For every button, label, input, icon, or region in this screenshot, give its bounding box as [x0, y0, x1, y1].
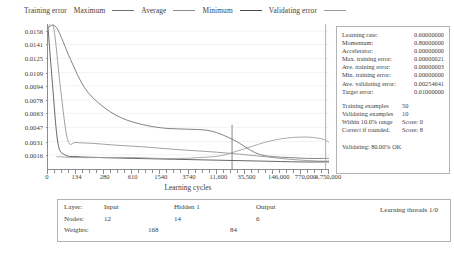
table-row-nodes: Nodes: 12 14 6	[64, 215, 444, 227]
x-tick-label: 35,500	[237, 173, 255, 180]
parameter-row: Target error:0.01000000	[342, 88, 444, 96]
stat-key: Training examples	[342, 102, 402, 110]
parameter-key: Ave. training error:	[342, 63, 390, 71]
y-tick-label: 0.0063	[25, 110, 43, 117]
legend-item-validating-label: Validating error	[269, 6, 317, 15]
training-chart-window: Training error Maximum Average Minimum V…	[0, 0, 454, 263]
parameter-row: Max. training error:0.00000021	[342, 55, 444, 63]
x-tick-label: 11,600	[209, 173, 227, 180]
parameter-value: 0.00000003	[414, 63, 444, 71]
table-row-layer: Layer: Input Hidden 1 Output Learning th…	[64, 203, 444, 215]
x-tick-label: 280	[100, 173, 110, 180]
info-panel: Learning rate:0.60000000Momentum:0.80000…	[336, 26, 450, 174]
nodes-hidden-value: 14	[174, 215, 181, 223]
legend-item-average-label: Average	[141, 6, 166, 15]
stat-row: Correct if rounded.Score: 8	[342, 126, 444, 134]
parameter-key: Max. training error:	[342, 55, 392, 63]
legend-swatch-validating-icon	[324, 10, 346, 11]
stat-key: Correct if rounded.	[342, 126, 402, 134]
legend-swatch-average-icon	[173, 10, 195, 11]
x-tick-label: 770,000	[295, 173, 316, 180]
legend-item-minimum-label: Minimum	[202, 6, 232, 15]
parameter-value: 0.00000000	[414, 47, 444, 55]
x-tick-label: 0	[45, 173, 48, 180]
x-tick-label: 1540	[154, 173, 167, 180]
nodes-output-value: 6	[256, 215, 260, 223]
x-tick-label: 146,000	[268, 173, 289, 180]
weights-first-value: 168	[148, 226, 159, 234]
weights-second-value: 84	[230, 226, 237, 234]
training-error-chart: 0.01560.01410.01250.01090.00940.00780.00…	[19, 22, 331, 174]
parameter-key: Min. training error:	[342, 71, 391, 79]
nodes-input-value: 12	[104, 215, 111, 223]
y-tick-label: 0.0016	[25, 151, 43, 158]
parameter-value: 0.00000000	[414, 71, 444, 79]
row-label-layer: Layer:	[64, 203, 82, 211]
legend-swatch-maximum-icon	[112, 10, 134, 11]
row-label-weights: Weights:	[64, 226, 89, 234]
stat-value: 50	[402, 102, 408, 110]
layer-hidden-label: Hidden 1	[174, 203, 200, 211]
x-tick-label: 4,750,000	[315, 173, 341, 180]
y-tick-label: 0.0156	[25, 28, 43, 35]
layer-output-label: Output	[256, 203, 275, 211]
x-tick-label: 3740	[182, 173, 195, 180]
stat-row: Validating examples10	[342, 110, 444, 118]
legend-item-maximum-label: Maximum	[74, 6, 106, 15]
x-tick-label: 610	[128, 173, 138, 180]
stat-value: Score: 8	[402, 126, 423, 134]
series-line-validating-error	[56, 137, 329, 158]
y-tick-label: 0.0141	[25, 41, 43, 48]
parameter-key: Learning rate:	[342, 31, 378, 39]
layer-input-label: Input	[104, 203, 119, 211]
y-tick-label: 0.0094	[25, 82, 43, 89]
stat-value: Score: 0	[402, 118, 423, 126]
parameter-row: Ave. validating error:0.00254641	[342, 80, 444, 88]
stat-key: Validating examples	[342, 110, 402, 118]
legend-swatch-minimum-icon	[240, 10, 262, 11]
parameter-value: 0.00000021	[414, 55, 444, 63]
y-tick-label: 0.0125	[25, 55, 43, 62]
x-axis-title: Learning cycles	[47, 183, 329, 192]
stat-key: Within 10.0% range	[342, 118, 402, 126]
y-axis-labels: 0.01560.01410.01250.01090.00940.00780.00…	[19, 22, 46, 172]
parameter-row: Learning rate:0.60000000	[342, 31, 444, 39]
y-tick-label: 0.0047	[25, 124, 43, 131]
learning-threads-label: Learning threads 1/0	[380, 206, 438, 214]
parameter-key: Target error:	[342, 88, 373, 96]
parameter-value: 0.01000000	[414, 88, 444, 96]
parameter-row: Momentum:0.80000000	[342, 39, 444, 47]
parameter-row: Min. training error:0.00000000	[342, 71, 444, 79]
legend-title: Training error	[24, 6, 67, 15]
table-row-weights: Weights: 168 84	[64, 226, 444, 238]
parameter-value: 0.60000000	[414, 31, 444, 39]
y-tick-label: 0.0078	[25, 97, 43, 104]
parameter-key: Momentum:	[342, 39, 373, 47]
parameter-key: Ave. validating error:	[342, 80, 396, 88]
x-tick-label: 134	[72, 173, 82, 180]
stats-list: Training examples50Validating examples10…	[342, 102, 444, 134]
parameter-key: Accelerator:	[342, 47, 373, 55]
chart-legend: Training error Maximum Average Minimum V…	[24, 4, 354, 16]
y-tick-label: 0.0031	[25, 138, 43, 145]
parameter-list: Learning rate:0.60000000Momentum:0.80000…	[342, 31, 444, 96]
plot-area	[47, 24, 329, 170]
validation-status: Validating: 80.00% OK	[342, 143, 444, 151]
parameter-row: Ave. training error:0.00000003	[342, 63, 444, 71]
network-structure-table: Layer: Input Hidden 1 Output Learning th…	[57, 199, 451, 242]
stat-row: Within 10.0% rangeScore: 0	[342, 118, 444, 126]
stat-row: Training examples50	[342, 102, 444, 110]
stat-value: 10	[402, 110, 408, 118]
parameter-row: Accelerator:0.00000000	[342, 47, 444, 55]
parameter-value: 0.80000000	[414, 39, 444, 47]
row-label-nodes: Nodes:	[64, 215, 84, 223]
parameter-value: 0.00254641	[414, 80, 444, 88]
y-tick-label: 0.0109	[25, 69, 43, 76]
